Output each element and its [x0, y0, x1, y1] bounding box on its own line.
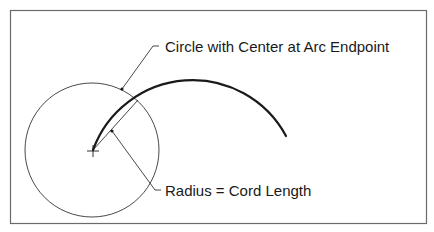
- arc-curve: [93, 80, 286, 150]
- circle-label-leader: [122, 46, 159, 89]
- radius-line: [93, 100, 138, 150]
- circle-label: Circle with Center at Arc Endpoint: [165, 38, 390, 55]
- diagram-canvas: Circle with Center at Arc Endpoint Radiu…: [0, 0, 434, 232]
- radius-label-leader: [112, 131, 161, 190]
- radius-leader-dot: [110, 129, 113, 132]
- center-crosshair-icon: [87, 145, 99, 157]
- radius-label: Radius = Cord Length: [165, 182, 311, 199]
- circle-leader-dot: [120, 87, 123, 90]
- figure: Circle with Center at Arc Endpoint Radiu…: [0, 0, 434, 232]
